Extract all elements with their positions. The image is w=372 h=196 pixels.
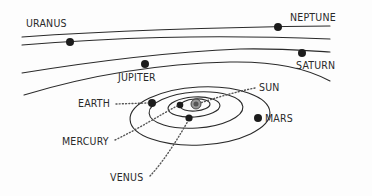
label-jupiter: JUPITER — [118, 72, 156, 83]
label-mercury: MERCURY — [62, 136, 109, 147]
solar-system-diagram: URANUS NEPTUNE JUPITER SATURN SUN EARTH … — [0, 0, 372, 196]
leader-sun — [200, 88, 255, 103]
sun-icon — [191, 99, 201, 109]
planet-neptune — [274, 23, 282, 31]
planet-mercury — [177, 102, 184, 109]
label-mars: MARS — [265, 113, 293, 124]
orbit-line — [22, 26, 330, 37]
leader-venus — [150, 121, 188, 176]
planet-venus — [185, 114, 192, 121]
label-uranus: URANUS — [26, 18, 67, 29]
planet-saturn — [298, 49, 306, 57]
leader-mercury — [115, 106, 177, 140]
planet-earth — [148, 99, 156, 107]
planet-mars — [254, 114, 262, 122]
leader-earth — [116, 103, 148, 104]
orbit-drawing — [0, 0, 372, 196]
label-neptune: NEPTUNE — [290, 12, 336, 23]
label-sun: SUN — [259, 82, 280, 93]
orbit-earth — [148, 89, 244, 131]
planet-uranus — [66, 38, 74, 46]
label-earth: EARTH — [78, 98, 110, 109]
label-saturn: SATURN — [296, 60, 335, 71]
label-venus: VENUS — [110, 172, 143, 183]
orbit-line — [22, 49, 330, 73]
planet-jupiter — [141, 60, 149, 68]
